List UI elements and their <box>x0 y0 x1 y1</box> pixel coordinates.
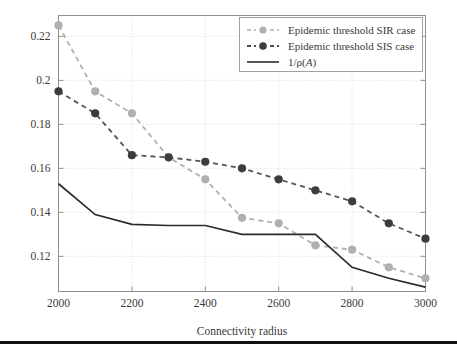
x-tick-labels: 200022002400260028003000 <box>47 297 437 309</box>
data-point <box>348 197 356 205</box>
x-tick-label: 2400 <box>194 297 217 309</box>
line-chart: 200022002400260028003000 0.120.140.160.1… <box>0 0 457 356</box>
data-point <box>421 274 429 282</box>
data-point <box>201 175 209 183</box>
x-tick-label: 3000 <box>414 297 437 309</box>
data-point <box>54 87 62 95</box>
x-tick-label: 2800 <box>341 297 364 309</box>
data-point <box>311 186 319 194</box>
legend-label-sir: Epidemic threshold SIR case <box>288 24 416 36</box>
figure-container: 200022002400260028003000 0.120.140.160.1… <box>0 0 457 356</box>
data-point <box>201 158 209 166</box>
data-point <box>385 263 393 271</box>
y-tick-label: 0.16 <box>30 162 50 174</box>
y-tick-label: 0.14 <box>30 206 50 218</box>
data-point <box>128 151 136 159</box>
legend-marker-sis <box>259 42 267 50</box>
y-tick-label: 0.12 <box>30 250 50 262</box>
x-tick-label: 2600 <box>267 297 290 309</box>
x-tick-label: 2200 <box>120 297 143 309</box>
data-point <box>385 219 393 227</box>
y-tick-labels: 0.120.140.160.180.20.22 <box>30 30 50 262</box>
series-line <box>59 184 426 287</box>
y-tick-label: 0.2 <box>36 74 51 86</box>
y-tick-label: 0.18 <box>30 118 50 130</box>
series-2 <box>59 184 426 287</box>
data-point <box>238 164 246 172</box>
data-point <box>275 219 283 227</box>
data-point <box>311 241 319 249</box>
data-point <box>91 87 99 95</box>
legend: Epidemic threshold SIR case Epidemic thr… <box>240 18 423 72</box>
data-point <box>91 109 99 117</box>
x-tick-label: 2000 <box>47 297 70 309</box>
bottom-rule <box>0 341 457 344</box>
data-point <box>348 246 356 254</box>
legend-marker-sir <box>259 26 266 33</box>
legend-rho-close: ) <box>312 56 316 69</box>
data-point <box>54 21 62 29</box>
data-point <box>128 109 136 117</box>
legend-label-rho: 1/ρ(A) <box>288 56 316 69</box>
y-tick-label: 0.22 <box>30 30 50 42</box>
legend-label-sis: Epidemic threshold SIS case <box>288 40 414 52</box>
data-point <box>275 175 283 183</box>
axis-tickmarks <box>59 36 426 291</box>
data-point <box>165 153 173 161</box>
data-point <box>421 235 429 243</box>
data-point <box>238 214 246 222</box>
x-axis-title: Connectivity radius <box>197 325 288 338</box>
